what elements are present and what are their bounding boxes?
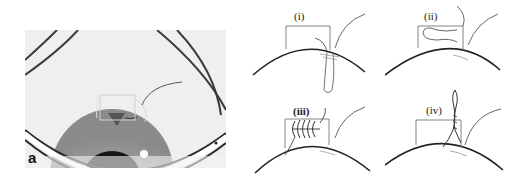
panel-label-iv: (iv) bbox=[426, 104, 442, 116]
panel-label-a: a bbox=[28, 149, 36, 166]
diagram-panel-ii bbox=[385, 0, 525, 93]
diagram-panel-i bbox=[245, 0, 385, 93]
panel-label-ii: (ii) bbox=[424, 10, 437, 22]
panel-label-iii: (iii) bbox=[293, 105, 310, 117]
diagram-panel-iii bbox=[245, 93, 385, 186]
surgical-photo bbox=[25, 30, 226, 168]
panel-label-i: (i) bbox=[294, 10, 304, 22]
diagram-panel-iv bbox=[385, 85, 525, 186]
